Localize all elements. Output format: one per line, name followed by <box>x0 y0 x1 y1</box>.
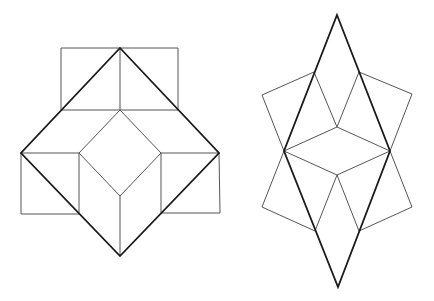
line-segment <box>390 151 412 207</box>
line-segment <box>315 175 337 231</box>
line-segment <box>219 153 220 213</box>
line-segment <box>314 72 337 127</box>
line-segment <box>120 153 161 196</box>
right-figure-outer-rhombus <box>284 15 390 287</box>
line-segment <box>79 110 120 153</box>
line-segment <box>390 94 412 151</box>
line-segment <box>262 151 284 207</box>
line-segment <box>262 72 314 95</box>
line-segment <box>262 95 284 151</box>
line-segment <box>120 110 161 153</box>
line-segment <box>79 153 120 196</box>
line-segment <box>337 72 359 127</box>
diagram-canvas <box>0 0 434 301</box>
line-segment <box>337 175 359 231</box>
left-geometric-figure <box>21 48 220 256</box>
left-figure-thin-lines <box>21 48 220 256</box>
right-geometric-figure <box>262 15 412 287</box>
